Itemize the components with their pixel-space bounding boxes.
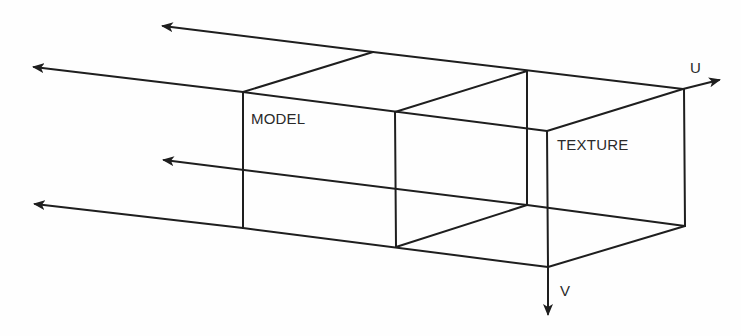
v-axis-label: V [560,282,570,299]
texture-back-right-vertical [684,89,685,226]
texture-bottom-diagonal [548,226,685,267]
projection-arrow-bottom-front [35,204,243,228]
u-axis-label: U [690,59,701,76]
projection-arrow-top-front [34,67,243,92]
texture-front-left-vertical [547,131,548,267]
u-axis-arrow [683,80,719,89]
model-top-right-diagonal [395,71,527,112]
projection-arrow-bottom-back [164,160,527,205]
diagram-lines [0,0,741,336]
model-right-front-vertical [395,112,396,247]
texture-top-diagonal [547,89,683,131]
projection-arrow-top-back [163,26,373,52]
diagram-canvas: MODEL TEXTURE U V [0,0,741,336]
model-label: MODEL [251,110,305,127]
model-top-left-diagonal [243,52,373,92]
texture-label: TEXTURE [557,136,628,153]
bottom-back-edge [527,205,685,226]
model-bottom-right-diagonal [396,205,527,247]
